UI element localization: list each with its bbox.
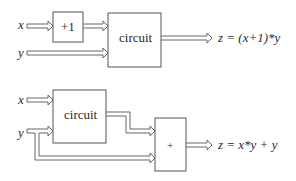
bottom-output-equation: z = x*y + y: [217, 137, 278, 152]
bottom-arrow-x-to-circuit: [27, 95, 53, 105]
top-input-x-label: x: [17, 17, 24, 32]
top-diagram: x +1 y: [16, 12, 281, 67]
top-arrow-y-to-circuit: [27, 48, 108, 58]
top-circuit-label: circuit: [119, 30, 153, 45]
bottom-arrow-y-to-circuit: [27, 126, 53, 136]
bottom-arrow-circuit-to-adder: [106, 112, 155, 136]
top-increment-label: +1: [61, 19, 75, 34]
bottom-diagram: x circuit y: [16, 90, 278, 171]
bottom-circuit-label: circuit: [64, 107, 98, 122]
bottom-input-y-label: y: [16, 125, 24, 140]
top-arrow-x-to-increment: [27, 21, 53, 31]
bottom-input-x-label: x: [17, 92, 24, 107]
top-input-y-label: y: [16, 45, 24, 60]
top-arrow-output: [161, 33, 212, 43]
bottom-adder-label: +: [167, 139, 173, 151]
top-output-equation: z = (x+1)*y: [217, 30, 281, 45]
diagram-canvas: x +1 y: [0, 0, 296, 181]
top-arrow-increment-to-circuit: [83, 21, 108, 31]
bottom-arrow-output: [186, 140, 212, 150]
